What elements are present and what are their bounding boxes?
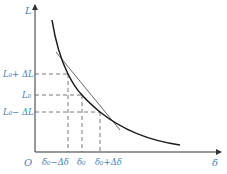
tangent-line bbox=[56, 52, 120, 130]
l-delta-curve bbox=[52, 20, 180, 145]
y-tick-lower: L₀− ΔL bbox=[2, 107, 34, 117]
x-tick-right: δ₀+Δδ bbox=[95, 157, 122, 167]
dashed-guides bbox=[35, 74, 100, 152]
x-tick-left: δ₀−Δδ bbox=[42, 157, 69, 167]
y-axis-label: L bbox=[24, 5, 32, 16]
y-tick-mid: L₀ bbox=[21, 90, 32, 100]
inductance-displacement-diagram: L δ O L₀+ ΔL L₀ L₀− ΔL δ₀−Δδ δ₀ δ₀+Δδ bbox=[0, 0, 227, 174]
y-tick-upper: L₀+ ΔL bbox=[2, 69, 34, 79]
origin-label: O bbox=[24, 157, 32, 168]
x-axis-label: δ bbox=[212, 157, 218, 168]
x-tick-mid: δ₀ bbox=[77, 157, 86, 167]
